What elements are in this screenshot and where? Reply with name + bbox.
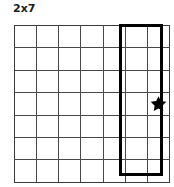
grid-container	[14, 25, 162, 175]
grid-cell[interactable]	[81, 26, 103, 48]
grid-cell[interactable]	[125, 115, 147, 137]
grid-cell[interactable]	[15, 115, 37, 137]
grid-cell[interactable]	[103, 160, 125, 182]
grid-cell[interactable]	[37, 93, 59, 115]
grid-row	[15, 160, 170, 182]
grid-cell[interactable]	[147, 115, 169, 137]
grid-cell[interactable]	[125, 160, 147, 182]
grid-cell-star[interactable]	[147, 93, 169, 115]
grid-cell[interactable]	[125, 93, 147, 115]
grid-row	[15, 48, 170, 70]
grid-cell[interactable]	[59, 48, 81, 70]
grid-cell[interactable]	[81, 138, 103, 160]
puzzle-figure: 2x7	[0, 0, 174, 187]
grid-cell[interactable]	[81, 70, 103, 92]
grid-cell[interactable]	[147, 160, 169, 182]
grid-cell[interactable]	[15, 160, 37, 182]
grid-row	[15, 70, 170, 92]
grid-cell[interactable]	[15, 138, 37, 160]
grid-cell[interactable]	[103, 138, 125, 160]
grid-cell[interactable]	[103, 70, 125, 92]
grid-row	[15, 138, 170, 160]
grid-cell[interactable]	[81, 93, 103, 115]
grid-cell[interactable]	[37, 26, 59, 48]
grid-cell[interactable]	[103, 93, 125, 115]
star-icon	[148, 93, 169, 114]
grid-row	[15, 93, 170, 115]
grid-cell[interactable]	[15, 26, 37, 48]
grid-cell[interactable]	[103, 115, 125, 137]
grid-cell[interactable]	[37, 48, 59, 70]
grid-cell[interactable]	[59, 93, 81, 115]
grid-cell[interactable]	[37, 70, 59, 92]
grid-cell[interactable]	[37, 115, 59, 137]
grid-body	[15, 26, 170, 183]
grid-row	[15, 115, 170, 137]
grid-row	[15, 26, 170, 48]
grid-cell[interactable]	[59, 70, 81, 92]
grid-cell[interactable]	[81, 160, 103, 182]
grid-cell[interactable]	[147, 138, 169, 160]
grid-cell[interactable]	[15, 48, 37, 70]
grid-cell[interactable]	[125, 70, 147, 92]
grid-cell[interactable]	[15, 70, 37, 92]
grid-cell[interactable]	[147, 70, 169, 92]
grid-cell[interactable]	[103, 26, 125, 48]
grid-cell[interactable]	[37, 138, 59, 160]
grid-cell[interactable]	[37, 160, 59, 182]
grid-cell[interactable]	[103, 48, 125, 70]
grid-cell[interactable]	[59, 115, 81, 137]
grid-cell[interactable]	[125, 138, 147, 160]
grid-cell[interactable]	[125, 26, 147, 48]
page-title: 2x7	[13, 2, 35, 16]
grid-cell[interactable]	[81, 115, 103, 137]
grid-cell[interactable]	[15, 93, 37, 115]
grid-cell[interactable]	[59, 26, 81, 48]
grid-table	[14, 25, 170, 183]
grid-cell[interactable]	[147, 26, 169, 48]
grid-cell[interactable]	[125, 48, 147, 70]
grid-cell[interactable]	[81, 48, 103, 70]
grid-cell[interactable]	[59, 160, 81, 182]
grid-cell[interactable]	[147, 48, 169, 70]
grid-cell[interactable]	[59, 138, 81, 160]
